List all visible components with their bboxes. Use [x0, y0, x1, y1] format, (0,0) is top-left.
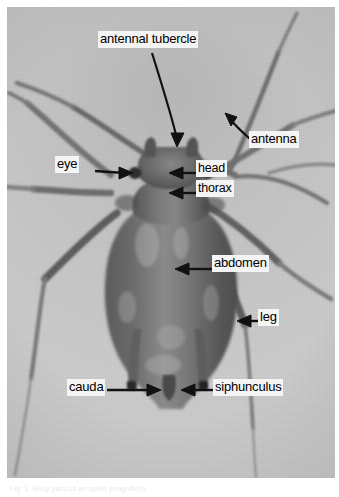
leader-antennal-tubercle [152, 53, 177, 139]
photograph [7, 7, 335, 478]
coxa-right [201, 197, 225, 213]
arrowhead-antennal-tubercle [171, 133, 184, 147]
label-antennal-tubercle: antennal tubercle [98, 31, 198, 48]
antennal-tubercle-left [144, 137, 156, 157]
label-siphunculus: siphunculus [213, 379, 283, 396]
figure-annotated-aphid-photo: antennal tubercle antenna eye head thora… [0, 0, 339, 497]
figure-caption: Fig. 1. Body parts of an aphid (magnifie… [10, 484, 332, 493]
label-thorax: thorax [196, 180, 234, 197]
label-eye: eye [55, 156, 79, 173]
label-abdomen: abdomen [212, 255, 269, 272]
siphunculus-tip-left [127, 381, 136, 390]
label-head: head [196, 160, 227, 177]
label-leg: leg [258, 309, 279, 326]
siphunculus-tip-right [199, 381, 208, 390]
aphid-illustration [7, 7, 335, 478]
antennal-tubercle-right [186, 137, 198, 157]
label-antenna: antenna [249, 131, 299, 148]
coxa-left [115, 195, 139, 211]
label-cauda: cauda [67, 379, 105, 396]
